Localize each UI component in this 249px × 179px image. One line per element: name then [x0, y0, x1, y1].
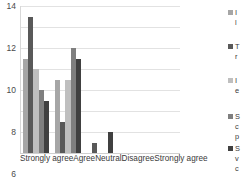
legend-label: S v c — [235, 144, 240, 174]
bar-group — [52, 6, 84, 153]
bar-group — [148, 6, 180, 153]
x-axis-category-label: Disagree — [122, 155, 155, 164]
y-axis-tick-label: 10 — [7, 86, 16, 95]
legend-label: T r — [235, 42, 240, 62]
bar — [44, 101, 49, 154]
legend: I lT rI eS c pS v c — [228, 4, 249, 176]
bar — [92, 143, 97, 154]
legend-label: S c p — [235, 112, 240, 142]
legend-swatch-icon — [228, 78, 233, 83]
legend-item[interactable]: I e — [228, 76, 249, 96]
legend-item[interactable]: T r — [228, 42, 249, 62]
legend-item[interactable]: I l — [228, 8, 249, 28]
x-axis-category-label: Strongly agree — [20, 155, 73, 164]
legend-swatch-icon — [228, 10, 233, 15]
y-axis-tick-label: 8 — [11, 128, 16, 137]
bar — [108, 132, 113, 153]
plot-area: 02468101214 — [20, 6, 180, 153]
x-axis-category-label: Strongly agree — [154, 155, 207, 164]
bar-group — [84, 6, 116, 153]
bar-chart: 02468101214 Strongly agreeAgreeNeutralDi… — [0, 0, 249, 179]
x-axis-category-label: Neutral — [95, 155, 121, 164]
legend-swatch-icon — [228, 44, 233, 49]
bar-groups — [20, 6, 180, 153]
y-axis-tick-label: 12 — [7, 44, 16, 53]
legend-label: I e — [235, 76, 239, 96]
legend-label: I l — [235, 8, 237, 28]
x-axis-category-label: Agree — [73, 155, 95, 164]
legend-item[interactable]: S c p — [228, 112, 249, 142]
legend-item[interactable]: S v c — [228, 144, 249, 174]
y-axis-tick-label: 14 — [7, 2, 16, 11]
bar-group — [116, 6, 148, 153]
bar-group — [20, 6, 52, 153]
x-axis-labels: Strongly agreeAgreeNeutralDisagreeStrong… — [20, 155, 180, 164]
legend-swatch-icon — [228, 114, 233, 119]
bar — [76, 59, 81, 154]
legend-swatch-icon — [228, 146, 233, 151]
y-axis-tick-label: 6 — [11, 170, 16, 179]
